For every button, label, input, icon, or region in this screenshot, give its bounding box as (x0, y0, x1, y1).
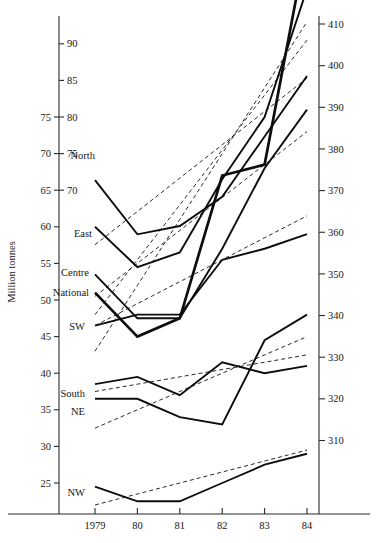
series-label-national: National (53, 287, 89, 298)
left-axis-tick-label: 55 (41, 258, 52, 269)
left-axis-tick-label: 45 (41, 331, 52, 342)
left-axis-tick-label: 60 (41, 221, 52, 232)
right-axis-tick-label: 310 (328, 435, 344, 446)
data-series (95, 0, 307, 501)
trend-line-ne-trend (95, 337, 307, 429)
left-axis-tick-label: 40 (41, 368, 52, 379)
series-label-sw: SW (69, 321, 85, 332)
trend-line-east-trend (95, 40, 307, 315)
series-line-east (95, 0, 307, 267)
line-chart: NorthEastCentreNationalSWSouthNENW 25303… (0, 0, 378, 543)
right-axis-tick-label: 410 (328, 19, 344, 30)
left-axis-inner-tick-label: 70 (67, 185, 78, 196)
series-label-east: East (74, 228, 92, 239)
x-axis-tick-label: 82 (217, 520, 228, 531)
series-label-nw: NW (68, 487, 86, 498)
series-line-ne (95, 315, 307, 425)
left-axis-inner-tick-label: 85 (67, 75, 78, 86)
right-axis-tick-label: 390 (328, 102, 344, 113)
trend-lines (95, 22, 307, 505)
left-axis-tick-label: 50 (41, 295, 52, 306)
right-axis-tick-label: 400 (328, 60, 344, 71)
trend-line-south-trend (95, 355, 307, 392)
right-axis-tick-label: 340 (328, 310, 344, 321)
right-axis-tick-label: 330 (328, 352, 344, 363)
trend-line-sw-trend (95, 216, 307, 326)
axes (8, 16, 370, 514)
right-axis-tick-label: 320 (328, 393, 344, 404)
x-axis-tick-label: 83 (259, 520, 270, 531)
x-axis-tick-label: 81 (175, 520, 186, 531)
series-label-ne: NE (71, 406, 85, 417)
right-axis-tick-label: 360 (328, 227, 344, 238)
axis-titles: Million tonnes (6, 241, 17, 303)
x-axis-tick-label: 1979 (85, 520, 106, 531)
chart-container: NorthEastCentreNationalSWSouthNENW 25303… (0, 0, 378, 543)
left-axis-tick-label: 75 (41, 112, 52, 123)
right-axis-tick-label: 370 (328, 185, 344, 196)
series-label-south: South (60, 388, 85, 399)
trend-line-national-trend (95, 22, 307, 351)
left-axis-inner-tick-label: 75 (67, 148, 78, 159)
left-axis-tick-label: 25 (41, 478, 52, 489)
left-axis-inner-tick-label: 90 (67, 38, 78, 49)
x-axis-tick-label: 84 (302, 520, 313, 531)
x-axis-tick-label: 80 (132, 520, 143, 531)
series-line-south (95, 362, 307, 395)
left-axis-tick-label: 30 (41, 441, 52, 452)
right-axis-tick-label: 380 (328, 144, 344, 155)
series-line-nw (95, 454, 307, 502)
left-axis-tick-label: 70 (41, 148, 52, 159)
right-axis-tick-label: 350 (328, 269, 344, 280)
y-axis-title: Million tonnes (6, 241, 17, 303)
left-axis-inner-tick-label: 80 (67, 112, 78, 123)
left-axis-tick-label: 65 (41, 185, 52, 196)
left-axis-tick-label: 35 (41, 404, 52, 415)
series-label-centre: Centre (61, 267, 89, 278)
